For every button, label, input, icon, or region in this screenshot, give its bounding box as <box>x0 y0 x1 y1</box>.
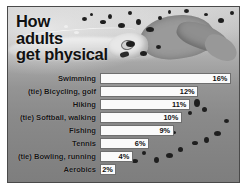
bar-category-label: (tie) Bowling, running <box>8 151 100 162</box>
bar: 9% <box>100 125 174 136</box>
bar-category-label: Swimming <box>8 73 100 84</box>
bar: 2% <box>100 164 116 175</box>
splash-droplet <box>140 51 147 56</box>
bar-chart: Swimming16%(tie) Bicycling, golf12%Hikin… <box>8 73 239 178</box>
chart-row: (tie) Bowling, running4% <box>8 151 239 162</box>
chart-row: Tennis6% <box>8 138 239 149</box>
bar-track: 10% <box>100 112 239 123</box>
infographic-panel: How adults get physical Swimming16%(tie)… <box>7 6 240 183</box>
bar-category-label: Fishing <box>8 125 100 136</box>
bar-category-label: Hiking <box>8 99 100 110</box>
bar-value-label: 2% <box>102 164 115 175</box>
bar-category-label: (tie) Softball, walking <box>8 112 100 123</box>
chart-row: Swimming16% <box>8 73 239 84</box>
bar-track: 16% <box>100 73 239 84</box>
bar-track: 11% <box>100 99 239 110</box>
splash-droplet <box>128 11 132 15</box>
bar-track: 6% <box>100 138 239 149</box>
splash-droplet <box>118 23 125 28</box>
splash-droplet <box>136 19 141 25</box>
splash-droplet <box>218 18 224 23</box>
splash-droplet <box>146 27 154 32</box>
splash-droplet <box>158 16 162 20</box>
bar-track: 9% <box>100 125 239 136</box>
splash-droplet <box>230 11 234 15</box>
splash-droplet <box>204 13 208 16</box>
splash-droplet <box>126 41 135 47</box>
bar: 12% <box>100 86 198 97</box>
bar-track: 2% <box>100 164 239 175</box>
bar-value-label: 16% <box>213 73 230 84</box>
bar: 11% <box>100 99 190 110</box>
bar-value-label: 12% <box>180 86 197 97</box>
splash-droplet <box>156 45 161 49</box>
splash-droplet <box>108 14 112 19</box>
bar-category-label: (tie) Bicycling, golf <box>8 86 100 97</box>
chart-row: (tie) Softball, walking10% <box>8 112 239 123</box>
chart-row: Hiking11% <box>8 99 239 110</box>
bar-track: 12% <box>100 86 239 97</box>
splash-droplet <box>168 10 171 14</box>
bar: 10% <box>100 112 182 123</box>
bar-category-label: Tennis <box>8 138 100 149</box>
bar-category-label: Aerobics <box>8 164 100 175</box>
page-title: How adults get physical <box>16 13 108 63</box>
bar: 4% <box>100 151 133 162</box>
bar-value-label: 11% <box>172 99 189 110</box>
chart-row: Fishing9% <box>8 125 239 136</box>
chart-row: (tie) Bicycling, golf12% <box>8 86 239 97</box>
bar: 16% <box>100 73 231 84</box>
bar: 6% <box>100 138 149 149</box>
bar-value-label: 10% <box>163 112 180 123</box>
bar-value-label: 9% <box>159 125 172 136</box>
bar-track: 4% <box>100 151 239 162</box>
splash-droplet <box>184 9 189 13</box>
bar-value-label: 4% <box>119 151 132 162</box>
chart-row: Aerobics2% <box>8 164 239 175</box>
bar-value-label: 6% <box>135 138 148 149</box>
